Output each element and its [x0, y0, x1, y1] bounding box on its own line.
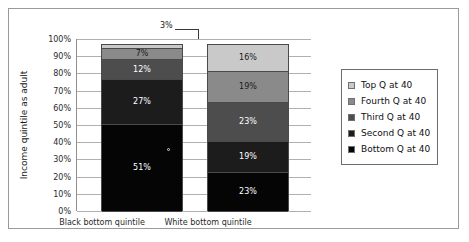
gridline: 100%	[77, 39, 311, 40]
legend-item[interactable]: Fourth Q at 40	[348, 93, 431, 109]
callout-leader-line-vertical	[198, 29, 199, 39]
legend-item[interactable]: Third Q at 40	[348, 109, 431, 125]
bar-white-bottom-quintile[interactable]: 16%19%23%19%23%	[207, 44, 289, 211]
bar-segment-label: 23%	[239, 188, 257, 196]
bar-segment[interactable]: 23%	[208, 102, 288, 142]
y-tick-label: 40%	[53, 138, 71, 147]
y-tick-label: 10%	[53, 189, 71, 198]
y-tick-label: 100%	[48, 35, 71, 44]
legend-item[interactable]: Top Q at 40	[348, 77, 431, 93]
bar-segment[interactable]: 27%	[102, 79, 182, 125]
bar-segment-label: 16%	[239, 54, 257, 62]
legend-item-label: Top Q at 40	[361, 80, 412, 90]
legend-swatch-icon	[348, 82, 355, 89]
legend-item-label: Third Q at 40	[361, 112, 420, 122]
legend-item-label: Second Q at 40	[361, 128, 430, 138]
y-tick-label: 0%	[58, 207, 71, 216]
y-tick-label: 80%	[53, 69, 71, 78]
stray-dot-marker	[167, 148, 170, 151]
y-tick-label: 60%	[53, 103, 71, 112]
y-tick-label: 90%	[53, 52, 71, 61]
legend-item[interactable]: Second Q at 40	[348, 125, 431, 141]
bar-segment-label: 19%	[239, 153, 257, 161]
legend: Top Q at 40Fourth Q at 40Third Q at 40Se…	[341, 69, 438, 165]
bar-segment[interactable]: 16%	[208, 44, 288, 72]
bar-segment-label: 19%	[239, 83, 257, 91]
callout-leader-line-horizontal	[175, 29, 199, 30]
bar-segment[interactable]: 19%	[208, 71, 288, 104]
bar-segment-label: 27%	[133, 98, 151, 106]
legend-item-label: Fourth Q at 40	[361, 96, 426, 106]
bar-segment[interactable]: 19%	[208, 141, 288, 174]
plot-area: 0%10%20%30%40%50%60%70%80%90%100% 3%7%12…	[77, 39, 311, 211]
legend-swatch-icon	[348, 114, 355, 121]
bar-black-bottom-quintile[interactable]: 3%7%12%27%51%	[101, 44, 183, 211]
bar-segment-label: 51%	[133, 164, 151, 172]
bar-segment[interactable]: 12%	[102, 59, 182, 80]
legend-swatch-icon	[348, 130, 355, 137]
chart-frame: Income quintile as adult 0%10%20%30%40%5…	[8, 8, 459, 229]
category-label-white: White bottom quintile	[148, 218, 268, 227]
legend-swatch-icon	[348, 146, 355, 153]
y-tick-label: 70%	[53, 86, 71, 95]
callout-label-3-percent: 3%	[160, 21, 173, 30]
category-label-black: Black bottom quintile	[42, 218, 162, 227]
y-axis-title: Income quintile as adult	[17, 39, 31, 211]
y-axis-title-label: Income quintile as adult	[19, 71, 29, 180]
bar-segment-label: 7%	[136, 50, 149, 58]
bar-segment[interactable]: 23%	[208, 172, 288, 212]
y-tick-label: 20%	[53, 172, 71, 181]
bar-segment[interactable]: 51%	[102, 124, 182, 212]
legend-item-label: Bottom Q at 40	[361, 144, 430, 154]
legend-swatch-icon	[348, 98, 355, 105]
legend-item[interactable]: Bottom Q at 40	[348, 141, 431, 157]
y-tick-label: 30%	[53, 155, 71, 164]
bar-segment-label: 23%	[239, 118, 257, 126]
y-tick-label: 50%	[53, 121, 71, 130]
bar-segment-label: 12%	[133, 66, 151, 74]
